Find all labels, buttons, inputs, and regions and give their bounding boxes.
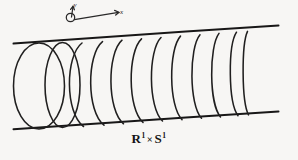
axis-indicator-group: y x: [66, 1, 124, 22]
helix-coil-8: [172, 36, 182, 120]
helix-coil-6: [131, 39, 143, 123]
helix-coil-11: [230, 32, 238, 116]
helix-coil-1: [14, 43, 65, 129]
helix-coil-4: [91, 42, 104, 126]
caption-exponent-right: 1: [162, 131, 166, 140]
helix-coil-3: [69, 43, 83, 127]
helix-coil-7: [151, 38, 162, 122]
helix-coil-9: [192, 35, 202, 119]
helix-coil-12: [243, 31, 248, 115]
figure-caption: R1×S1: [0, 131, 298, 147]
y-axis-label: y: [73, 1, 78, 9]
axis-origin-circle: [66, 13, 74, 21]
helix-coils-group: [14, 31, 249, 129]
x-axis-label: x: [119, 8, 124, 16]
caption-base-left: R: [131, 131, 141, 146]
figure-container: y x: [0, 0, 298, 160]
helix-coil-5: [111, 40, 124, 124]
x-axis-line: [74, 12, 118, 19]
cylinder-top-rail: [14, 26, 279, 44]
helix-coil-10: [212, 33, 221, 117]
